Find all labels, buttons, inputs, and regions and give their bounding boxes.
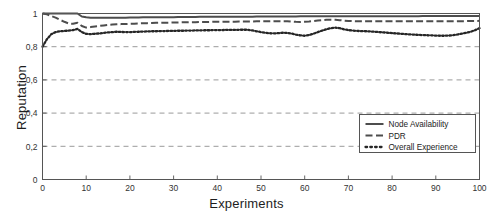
legend-label: PDR [389,132,406,141]
legend-label: Overall Experience [389,143,459,152]
x-tick-label: 80 [387,183,397,193]
data-series-group [43,14,480,47]
legend-label: Node Availability [389,120,450,129]
x-tick-label: 30 [169,183,179,193]
x-tick-label: 90 [431,183,441,193]
x-tick-label: 60 [300,183,310,193]
x-tick-label: 10 [81,183,91,193]
x-tick-label: 100 [472,183,486,193]
x-tick-label: 70 [344,183,354,193]
plot-frame [43,14,480,180]
x-axis-label: Experiments [0,196,493,211]
series-line [43,28,480,47]
y-tick-label: 0 [33,175,38,185]
y-axis-label: Reputation [14,33,29,163]
y-axis-ticks-group: 00,20,40,60,81 [26,9,47,185]
x-tick-label: 0 [40,183,45,193]
x-tick-label: 20 [125,183,135,193]
chart-canvas: 0102030405060708090100 00,20,40,60,81 No… [0,0,493,217]
x-tick-label: 50 [256,183,266,193]
series-line [43,14,480,18]
chart-legend: Node AvailabilityPDROverall Experience [360,115,476,153]
x-tick-label: 40 [213,183,223,193]
reputation-line-chart: 0102030405060708090100 00,20,40,60,81 No… [0,0,493,217]
x-axis-ticks-group: 0102030405060708090100 [40,176,487,193]
y-tick-label: 1 [33,9,38,19]
